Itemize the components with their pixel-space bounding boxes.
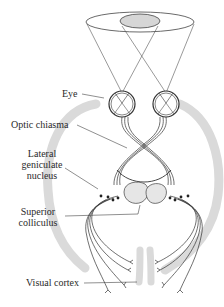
label-lgn-line1: Lateral [20,148,64,159]
eyes [109,91,179,117]
label-superior-colliculus: Superior colliculus [14,206,62,228]
label-lgn-line3: nucleus [20,170,64,181]
label-lateral-geniculate-nucleus: Lateral geniculate nucleus [20,148,64,181]
label-optic-chiasma: Optic chiasma [11,119,68,130]
visual-fields [86,12,194,32]
visual-pathway-diagram: Eye Optic chiasma Lateral geniculate nuc… [0,0,224,307]
label-eye: Eye [62,88,78,99]
label-sc-line1: Superior [14,206,62,217]
optic-nerves [114,117,174,185]
visual-field-rays [87,24,194,93]
label-lgn-line2: geniculate [20,159,64,170]
optic-radiations [86,196,203,290]
superior-colliculi [124,182,166,203]
label-sc-line2: colliculus [14,217,62,228]
label-visual-cortex: Visual cortex [26,277,79,288]
